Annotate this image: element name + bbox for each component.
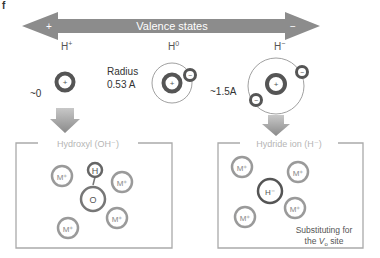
hydride-title: Hydride ion (H⁻) <box>256 139 322 149</box>
valence-states-label: Valence states <box>136 20 208 32</box>
svg-text:M⁺: M⁺ <box>63 225 74 234</box>
hydride-box: Hydride ion (H⁻) H⁻ M⁺ M⁺ M⁺ M⁺ Substitu… <box>218 139 363 248</box>
svg-text:−: − <box>300 69 304 76</box>
h-zero-radius-value: 0.53 A <box>107 79 136 90</box>
svg-text:M⁺: M⁺ <box>117 179 128 188</box>
h-zero-atom: + − <box>152 63 196 103</box>
h-minus-radius: ~1.5A <box>210 86 237 97</box>
svg-text:−: − <box>188 72 192 79</box>
h-minus-atom: + − − <box>248 58 308 114</box>
svg-text:M⁺: M⁺ <box>237 164 248 173</box>
panel-label: f <box>2 0 6 11</box>
svg-text:M⁺: M⁺ <box>112 215 123 224</box>
svg-text:−: − <box>254 97 258 104</box>
svg-text:+: + <box>274 80 279 89</box>
positive-sign: + <box>46 21 52 32</box>
svg-text:M⁺: M⁺ <box>240 214 251 223</box>
svg-text:H⁻: H⁻ <box>265 188 275 197</box>
svg-text:+: + <box>170 79 175 88</box>
label-h-plus: H+ <box>61 40 72 52</box>
valence-states-arrow: Valence states + − <box>22 12 320 40</box>
down-arrow-left <box>50 108 80 133</box>
svg-text:H: H <box>92 166 99 176</box>
hydride-note-line2: the Vo site <box>305 236 344 247</box>
label-h-minus: H− <box>274 40 285 52</box>
h-plus-radius: ~0 <box>30 88 42 99</box>
svg-text:M⁺: M⁺ <box>293 169 304 178</box>
svg-text:M⁺: M⁺ <box>290 205 301 214</box>
hydroxyl-box: Hydroxyl (OH⁻) H O M⁺ M⁺ M⁺ M⁺ <box>16 139 172 248</box>
h-zero-radius-label: Radius <box>107 66 138 77</box>
h-plus-atom: + <box>57 74 74 91</box>
hydride-note-line1: Substituting for <box>296 225 353 235</box>
svg-text:M⁺: M⁺ <box>57 173 68 182</box>
svg-text:O: O <box>89 195 96 205</box>
hydroxyl-title: Hydroxyl (OH⁻) <box>57 139 119 149</box>
svg-text:+: + <box>63 78 68 87</box>
negative-sign: − <box>290 21 296 32</box>
label-h-zero: H0 <box>168 40 179 52</box>
down-arrow-right <box>262 115 290 136</box>
